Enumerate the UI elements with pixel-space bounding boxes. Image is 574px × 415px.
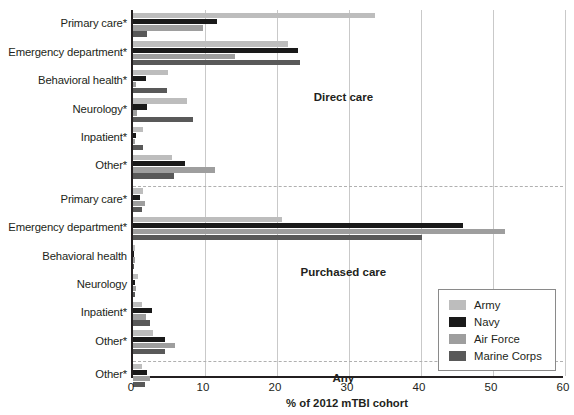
bar [133,76,146,81]
bar-fill-navy [133,161,185,166]
bar [133,245,135,250]
bar [133,201,145,206]
bar-fill-marine-corps [133,88,167,93]
bar-fill-marine-corps [133,349,165,354]
bar [133,60,300,65]
x-axis-title: % of 2012 mTBI cohort [131,397,563,409]
bar [133,286,136,291]
bar-fill-army [133,127,143,132]
y-axis-category-label: Emergency department* [0,46,127,58]
x-tick-label: 60 [557,381,570,393]
bar-fill-navy [133,19,217,24]
bar-fill-army [133,302,142,307]
bar [133,195,140,200]
bar [133,349,165,354]
y-axis-category-label: Emergency department* [0,221,127,233]
bar-fill-army [133,70,168,75]
bar-fill-marine-corps [133,382,145,387]
bar [133,48,298,53]
bar-fill-marine-corps [133,60,300,65]
bar-fill-air-force [133,286,136,291]
bar-fill-air-force [133,314,146,319]
bar-fill-army [133,155,172,160]
bar [133,235,422,240]
bar-fill-navy [133,133,136,138]
gridline [565,10,566,376]
bar-fill-navy [133,308,152,313]
y-axis-category-label: Behavioral health* [0,74,127,86]
gridline [421,10,422,376]
bar [133,382,145,387]
bar-fill-air-force [133,229,505,234]
bar [133,207,142,212]
bar [133,257,135,262]
bar [133,139,135,144]
legend-item: Marine Corps [439,347,555,364]
bar-fill-navy [133,48,298,53]
bar [133,13,375,18]
bar [133,19,217,24]
legend-label: Marine Corps [474,350,542,362]
bar-fill-navy [133,104,147,109]
bar [133,274,138,279]
legend-label: Army [474,299,500,311]
bar [133,251,134,256]
bar [133,161,185,166]
bar-fill-navy [133,280,135,285]
bar-fill-air-force [133,376,150,381]
bar-fill-marine-corps [133,320,150,325]
bar-fill-navy [133,195,140,200]
legend-label: Air Force [474,333,520,345]
bar [133,167,215,172]
bar-fill-navy [133,223,463,228]
bar-fill-air-force [133,201,145,206]
bar [133,25,203,30]
bar-fill-army [133,364,142,369]
bar-fill-army [133,217,282,222]
bar [133,104,147,109]
bar [133,88,167,93]
x-tick-label: 10 [197,381,210,393]
bar [133,337,165,342]
bar-fill-marine-corps [133,31,147,36]
bar [133,145,143,150]
bar-fill-air-force [133,167,215,172]
bar [133,292,135,297]
bar-fill-air-force [133,25,203,30]
bar-fill-air-force [133,54,235,59]
bar-fill-air-force [133,139,135,144]
section-label: Direct care [314,91,373,103]
bar-fill-marine-corps [133,145,143,150]
legend-swatch-air-force [449,334,466,344]
y-axis-category-label: Neurology* [0,103,127,115]
bar-fill-air-force [133,257,135,262]
bar [133,264,134,269]
bar-fill-navy [133,370,147,375]
bar-fill-air-force [133,82,136,87]
bar [133,314,146,319]
bar [133,280,135,285]
section-label: Any [333,372,355,384]
y-axis-category-label: Neurology [0,278,127,290]
bar [133,364,142,369]
bar-fill-marine-corps [133,264,134,269]
bar-fill-army [133,41,288,46]
bar [133,376,150,381]
bar [133,302,142,307]
bar [133,155,172,160]
y-axis-category-label: Inpatient* [0,131,127,143]
bar [133,117,193,122]
legend-label: Navy [474,316,500,328]
gridline [349,10,350,376]
y-axis-category-label: Inpatient* [0,306,127,318]
legend-swatch-navy [449,317,466,327]
x-tick-label: 0 [128,381,134,393]
bar [133,70,168,75]
y-axis-category-label: Primary care* [0,193,127,205]
bar-fill-marine-corps [133,292,135,297]
y-axis-category-label: Behavioral health [0,250,127,262]
bar [133,127,143,132]
x-tick-label: 20 [269,381,282,393]
bar-fill-army [133,188,143,193]
y-axis-category-label: Other* [0,368,127,380]
